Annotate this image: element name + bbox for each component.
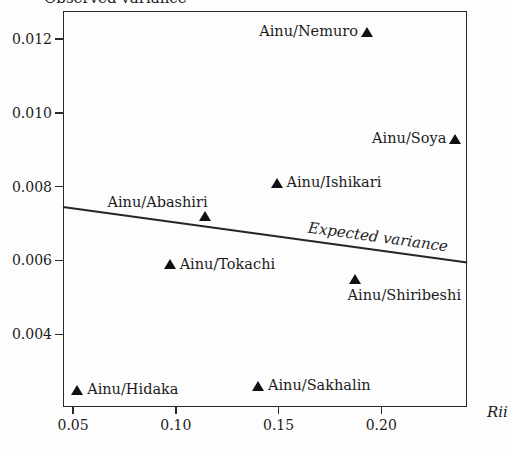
data-point-label: Ainu/Nemuro	[259, 22, 358, 41]
x-axis-label: Rii	[487, 403, 508, 421]
y-tick-label: 0.004	[0, 326, 52, 342]
data-point-marker	[349, 274, 361, 284]
x-tick-label: 0.05	[51, 417, 95, 433]
x-tick-mark	[72, 406, 73, 414]
data-point-marker	[164, 259, 176, 269]
y-tick-label: 0.006	[0, 252, 52, 268]
data-point-marker	[71, 385, 83, 395]
y-tick-label: 0.008	[0, 179, 52, 195]
y-axis-title: Observed variance	[44, 0, 187, 7]
data-point-label: Ainu/Hidaka	[87, 380, 178, 399]
x-tick-mark	[175, 406, 176, 414]
data-point-label: Ainu/Tokachi	[180, 255, 275, 274]
y-tick-mark	[55, 112, 63, 113]
y-tick-mark	[55, 186, 63, 187]
x-tick-label: 0.20	[359, 417, 403, 433]
x-tick-mark	[278, 406, 279, 414]
data-point-marker	[199, 211, 211, 221]
x-tick-label: 0.10	[154, 417, 198, 433]
data-point-label: Ainu/Shiribeshi	[348, 286, 461, 305]
x-tick-label: 0.15	[257, 417, 301, 433]
data-point-marker	[449, 134, 461, 144]
data-point-label: Ainu/Ishikari	[287, 173, 382, 192]
data-point-label: Ainu/Abashiri	[108, 193, 208, 212]
data-point-marker	[361, 27, 373, 37]
scatter-plot-figure: Observed variance 0.0040.0060.0080.0100.…	[0, 0, 510, 455]
data-point-label: Ainu/Soya	[372, 129, 446, 148]
data-point-marker	[271, 178, 283, 188]
y-tick-label: 0.010	[0, 105, 52, 121]
y-tick-mark	[55, 38, 63, 39]
data-point-label: Ainu/Sakhalin	[268, 376, 371, 395]
y-tick-mark	[55, 334, 63, 335]
y-tick-label: 0.012	[0, 31, 52, 47]
y-tick-mark	[55, 260, 63, 261]
x-tick-mark	[381, 406, 382, 414]
data-point-marker	[252, 381, 264, 391]
